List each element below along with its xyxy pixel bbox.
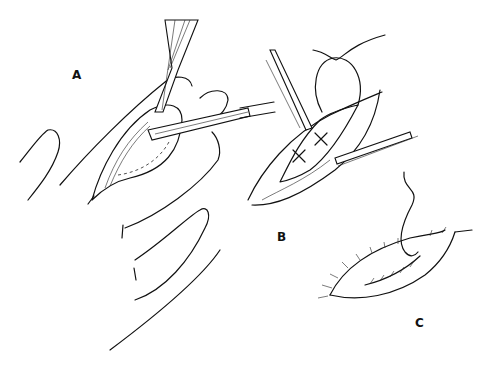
panel-label-b: B — [277, 230, 286, 244]
panel-b-drawing — [240, 35, 418, 205]
panel-label-a: A — [72, 68, 81, 82]
surgical-illustration — [0, 0, 486, 366]
panel-c-drawing — [318, 172, 472, 298]
panel-a-drawing — [20, 20, 250, 350]
panel-label-c: C — [415, 316, 424, 330]
